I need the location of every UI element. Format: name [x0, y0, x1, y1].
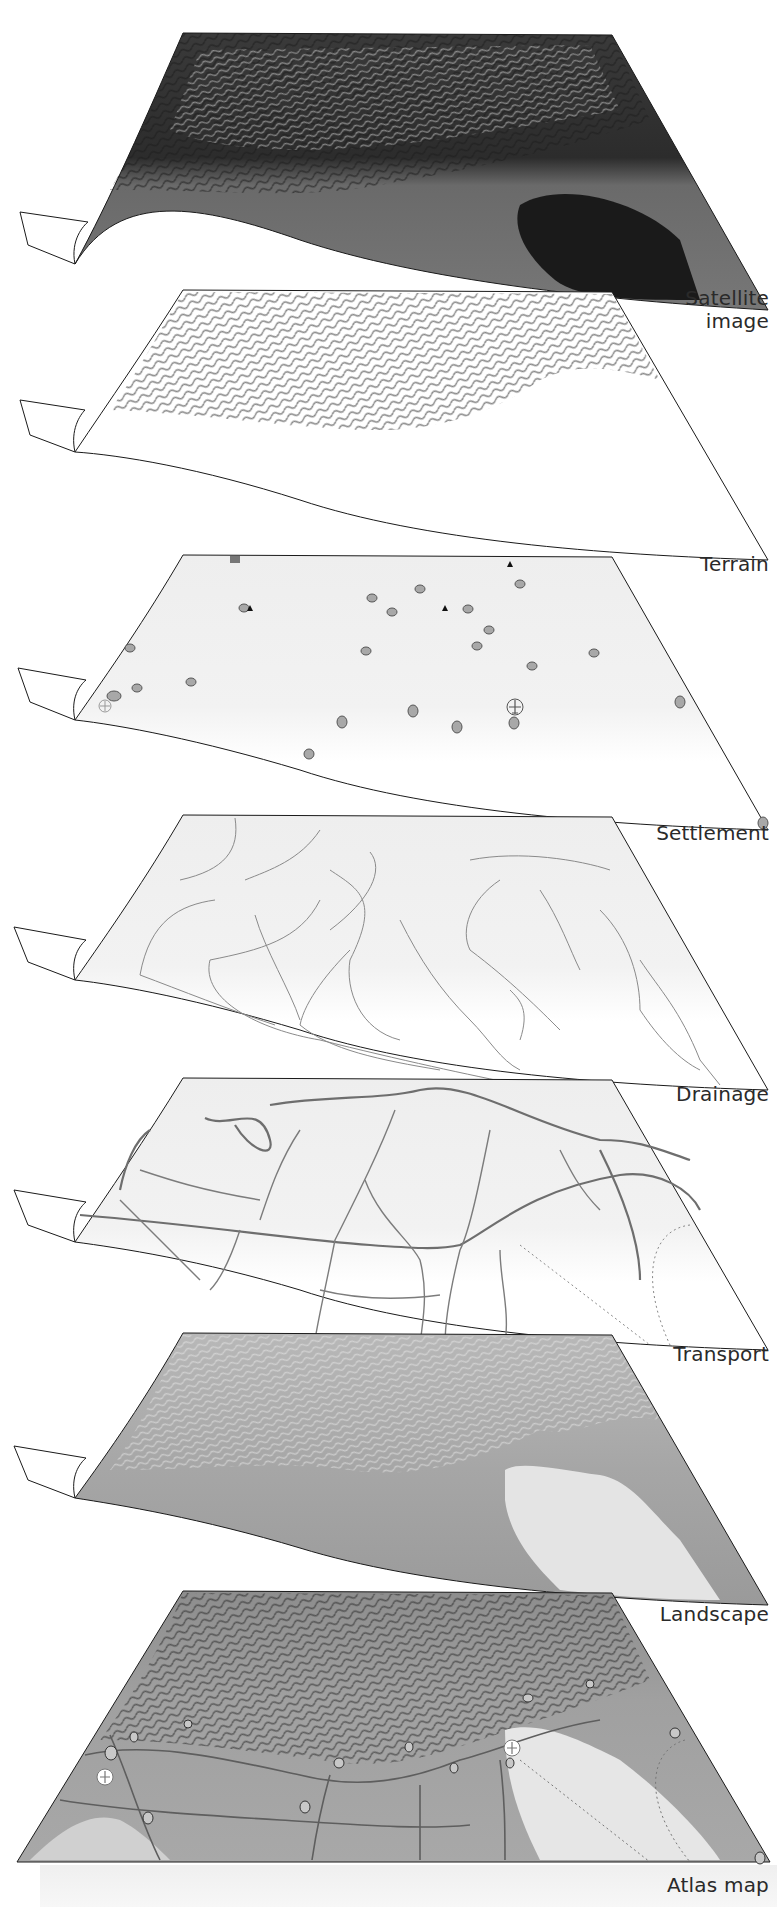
label-line: image [685, 310, 769, 333]
label-line: Terrain [700, 553, 769, 576]
layer-landscape [14, 1333, 768, 1605]
airport-icon [97, 1769, 113, 1785]
layer-drainage [14, 815, 768, 1090]
label-line: Satellite [685, 287, 769, 310]
layer-settlement [18, 555, 768, 830]
airport-icon [99, 700, 111, 712]
label-line: Transport [673, 1343, 769, 1366]
layer-label-terrain: Terrain [700, 553, 769, 576]
layer-atlas-map [17, 1591, 770, 1864]
layer-label-drainage: Drainage [676, 1083, 769, 1106]
layer-stack-diagram: Satellite image Terrain Settlement Drain… [0, 0, 777, 1907]
layer-label-landscape: Landscape [660, 1603, 769, 1626]
airport-icon [504, 1740, 520, 1756]
label-line: Drainage [676, 1083, 769, 1106]
settlement-marker-square [230, 556, 240, 563]
layer-label-transport: Transport [673, 1343, 769, 1366]
airport-icon [507, 699, 523, 715]
layer-terrain [20, 290, 768, 560]
layer-label-satellite: Satellite image [685, 287, 769, 333]
label-line: Atlas map [667, 1874, 769, 1897]
layer-label-atlas-map: Atlas map [667, 1874, 769, 1897]
label-line: Settlement [656, 822, 769, 845]
layer-label-settlement: Settlement [656, 822, 769, 845]
layer-transport [14, 1078, 768, 1350]
layer-satellite [20, 33, 768, 310]
label-line: Landscape [660, 1603, 769, 1626]
